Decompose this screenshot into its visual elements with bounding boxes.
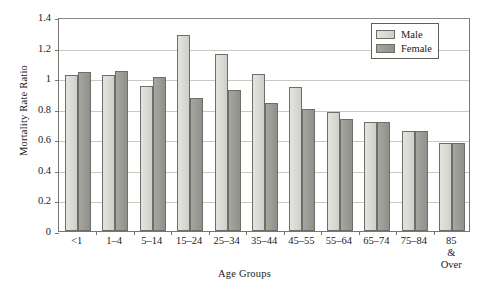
legend-label-male: Male xyxy=(401,29,423,40)
bar-female xyxy=(153,77,166,231)
bar-group xyxy=(434,19,471,231)
bar-male xyxy=(65,75,78,231)
bar-male xyxy=(177,35,190,231)
x-axis-tick-label: <1 xyxy=(71,235,82,247)
bar-male xyxy=(102,75,115,231)
y-axis-tick-label: 1.2 xyxy=(38,43,51,54)
bar-male xyxy=(364,122,377,231)
x-axis-tick-label: 15–24 xyxy=(176,235,202,247)
bar-group xyxy=(209,19,246,231)
bar-group xyxy=(321,19,358,231)
bar-female xyxy=(78,72,91,231)
x-axis-tick-label: 5–14 xyxy=(141,235,162,247)
y-axis-tick-label: 1 xyxy=(46,74,51,85)
x-axis-tick-labels: <11–45–1415–2425–3435–4445–5555–6465–747… xyxy=(58,235,470,267)
bar-male xyxy=(289,87,302,231)
bar-group xyxy=(134,19,171,231)
x-axis-tick-label: 65–74 xyxy=(363,235,389,247)
bar-group xyxy=(246,19,283,231)
x-axis-tick-label: 75–84 xyxy=(401,235,427,247)
legend-item-male: Male xyxy=(376,27,432,41)
bar-female xyxy=(228,90,241,231)
y-axis-tick-label: 1.4 xyxy=(38,13,51,24)
bar-female xyxy=(190,98,203,231)
legend-item-female: Female xyxy=(376,41,432,55)
bar-male xyxy=(402,131,415,231)
bar-male xyxy=(252,74,265,231)
mortality-rate-ratio-chart: Mortality Rate Ratio 00.20.40.60.811.21.… xyxy=(0,0,489,289)
x-axis-tick-label: 45–55 xyxy=(288,235,314,247)
y-axis-tick-mark xyxy=(55,233,59,234)
bar-male xyxy=(327,112,340,231)
legend-label-female: Female xyxy=(401,43,432,54)
y-axis-tick-label: 0.4 xyxy=(38,166,51,177)
bar-male xyxy=(439,143,452,231)
bar-female xyxy=(302,109,315,231)
bar-group xyxy=(59,19,96,231)
bar-group xyxy=(171,19,208,231)
x-axis-tick-label: 55–64 xyxy=(326,235,352,247)
bar-male xyxy=(215,54,228,231)
y-axis-tick-label: 0.2 xyxy=(38,196,51,207)
bar-female xyxy=(377,122,390,231)
bar-female xyxy=(340,119,353,231)
y-axis-tick-label: 0 xyxy=(46,227,51,238)
y-axis-tick-label: 0.6 xyxy=(38,135,51,146)
legend: Male Female xyxy=(371,23,439,59)
bar-group xyxy=(96,19,133,231)
bar-male xyxy=(140,86,153,231)
x-axis-tick-label: 1–4 xyxy=(106,235,122,247)
x-axis-title: Age Groups xyxy=(0,268,489,279)
x-axis-tick-label: 35–44 xyxy=(251,235,277,247)
y-axis-tick-labels: 00.20.40.60.811.21.4 xyxy=(0,0,56,289)
legend-swatch-male-icon xyxy=(376,30,395,39)
x-axis-tick-label: 85 & Over xyxy=(441,235,462,271)
bar-group xyxy=(284,19,321,231)
x-axis-tick-label: 25–34 xyxy=(213,235,239,247)
y-axis-tick-label: 0.8 xyxy=(38,104,51,115)
bar-female xyxy=(415,131,428,231)
legend-swatch-female-icon xyxy=(376,44,395,53)
bar-female xyxy=(115,71,128,231)
bar-female xyxy=(452,143,465,231)
bar-female xyxy=(265,103,278,231)
